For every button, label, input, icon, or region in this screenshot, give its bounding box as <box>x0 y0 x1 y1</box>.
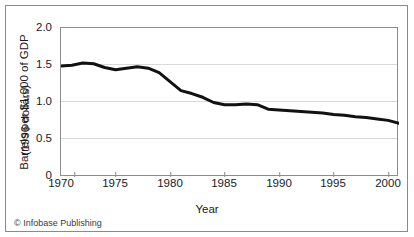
x-tick-label-1970: 1970 <box>48 178 74 190</box>
x-axis-title: Year <box>0 203 414 215</box>
x-tick-mark <box>333 172 334 177</box>
plot-area <box>60 27 398 176</box>
x-tick-mark <box>388 172 389 177</box>
copyright-credit: © Infobase Publishing <box>14 218 102 228</box>
x-tick-label-1985: 1985 <box>211 178 237 190</box>
x-tick-label-2000: 2000 <box>375 178 401 190</box>
series-energy-intensity-line <box>61 63 399 123</box>
y-axis-title: Barrels per $1,000 of GDP (1996 dollars) <box>14 32 44 172</box>
y-axis-title-line-2: (1996 dollars) <box>19 85 31 155</box>
x-tick-mark <box>170 172 171 177</box>
figure-container: 2.0 1.5 1.0 0.5 0 Barrels per $1,000 of … <box>0 0 414 237</box>
x-tick-mark <box>279 172 280 177</box>
x-tick-mark <box>115 172 116 177</box>
x-tick-label-1995: 1995 <box>320 178 346 190</box>
x-axis-tick-labels: 1970 1975 1980 1985 1990 1995 2000 <box>0 178 414 194</box>
x-tick-mark <box>224 172 225 177</box>
x-tick-label-1980: 1980 <box>157 178 183 190</box>
x-tick-label-1990: 1990 <box>266 178 292 190</box>
data-line-chart <box>61 28 399 177</box>
x-tick-mark <box>74 172 75 177</box>
x-tick-label-1975: 1975 <box>102 178 128 190</box>
